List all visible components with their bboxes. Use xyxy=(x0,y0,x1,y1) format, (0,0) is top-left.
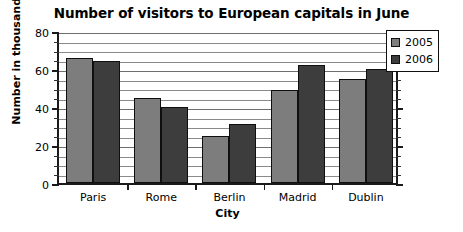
chart-title: Number of visitors to European capitals … xyxy=(0,5,463,21)
bar-dublin-2006 xyxy=(366,69,393,183)
x-axis-tick xyxy=(127,183,129,190)
x-axis-category-label: Madrid xyxy=(279,191,317,204)
legend-label-2006: 2006 xyxy=(405,53,433,66)
y-axis-tick xyxy=(52,108,59,110)
x-axis-tick xyxy=(195,183,197,190)
y-axis-tick xyxy=(52,184,59,186)
y-axis-tick-label: 0 xyxy=(42,179,49,192)
bar-madrid-2005 xyxy=(271,90,298,183)
legend-item-2005: 2005 xyxy=(391,34,433,51)
bar-berlin-2006 xyxy=(229,124,256,183)
bar-group: Madrid xyxy=(264,33,332,183)
x-axis-tick xyxy=(264,183,266,190)
bar-dublin-2005 xyxy=(339,79,366,184)
bar-rome-2005 xyxy=(134,98,161,184)
x-axis-category-label: Paris xyxy=(80,191,106,204)
x-axis-category-label: Dublin xyxy=(348,191,384,204)
bar-paris-2005 xyxy=(66,58,93,183)
y-axis-tick xyxy=(52,32,59,34)
x-axis-tick xyxy=(332,183,334,190)
bar-chart: Number of visitors to European capitals … xyxy=(0,0,463,232)
x-axis-category-label: Rome xyxy=(146,191,177,204)
x-axis-title: City xyxy=(57,207,398,220)
legend-swatch-2006 xyxy=(391,55,400,64)
y-axis-tick xyxy=(52,70,59,72)
legend-item-2006: 2006 xyxy=(391,51,433,68)
y-axis-tick-label: 40 xyxy=(35,103,49,116)
bar-group: Berlin xyxy=(195,33,263,183)
bar-group: Rome xyxy=(127,33,195,183)
y-axis-title: Number in thousands xyxy=(10,0,30,138)
legend: 2005 2006 xyxy=(386,30,439,72)
bar-berlin-2005 xyxy=(202,136,229,184)
legend-swatch-2005 xyxy=(391,38,400,47)
bar-paris-2006 xyxy=(93,61,120,183)
y-axis-tick-right xyxy=(396,184,403,186)
y-axis-tick-label: 80 xyxy=(35,27,49,40)
legend-label-2005: 2005 xyxy=(405,36,433,49)
y-axis-tick xyxy=(52,146,59,148)
bar-madrid-2006 xyxy=(298,65,325,183)
bar-group: Paris xyxy=(59,33,127,183)
y-axis-tick-label: 20 xyxy=(35,141,49,154)
x-axis-category-label: Berlin xyxy=(214,191,246,204)
y-axis-tick-label: 60 xyxy=(35,65,49,78)
bar-rome-2006 xyxy=(161,107,188,183)
plot-area: 020406080ParisRomeBerlinMadridDublin xyxy=(57,33,398,185)
